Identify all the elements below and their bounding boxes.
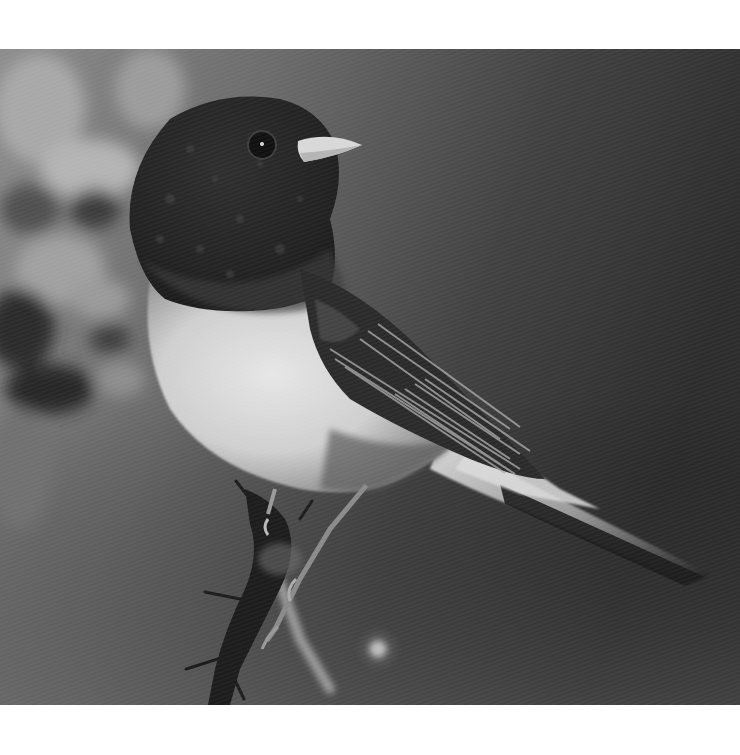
top-margin — [0, 0, 740, 49]
bottom-margin — [0, 705, 740, 755]
junco-illustration — [0, 49, 740, 705]
bird-photo — [0, 49, 740, 705]
photo-page — [0, 0, 740, 755]
